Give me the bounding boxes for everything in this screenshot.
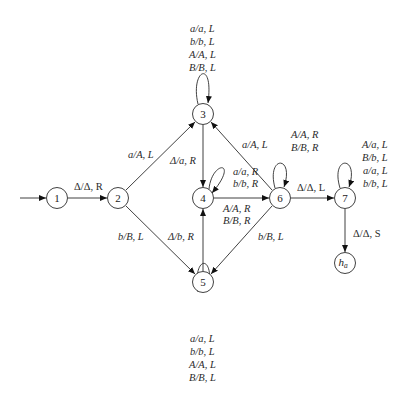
state-1: 1: [47, 188, 68, 209]
loop-7-line-1: A/a, L: [361, 139, 388, 150]
loop-label-5: a/a, L b/b, L A/A, L B/B, L: [188, 333, 216, 383]
state-6-label: 6: [277, 192, 283, 204]
loop-7: [338, 163, 352, 188]
loop-5-line-1: a/a, L: [190, 333, 215, 344]
state-1-label: 1: [54, 192, 60, 204]
loop-3-line-4: B/B, L: [189, 62, 216, 73]
state-2: 2: [108, 188, 129, 209]
loop-label-6: A/A, R B/B, R: [290, 129, 319, 153]
loop-4: [209, 168, 224, 193]
state-7: 7: [335, 188, 356, 209]
state-3: 3: [193, 104, 214, 125]
diagram-svg: 1 2 3 4 5 6 7 ha Δ/Δ, R a/A, L b/B, L Δ/…: [0, 0, 406, 395]
state-4: 4: [193, 188, 214, 209]
edge-label-6-7: Δ/Δ, L: [297, 182, 325, 193]
edge-label-1-2: Δ/Δ, R: [74, 181, 103, 192]
state-halt-accept: ha: [335, 253, 356, 274]
loop-4-line-2: b/b, R: [233, 178, 259, 189]
edge-4-6-line-2: B/B, R: [223, 215, 251, 226]
edge-label-4-6: A/A, R B/B, R: [222, 203, 251, 226]
state-4-label: 4: [200, 192, 206, 204]
edge-label-6-5: b/B, L: [258, 231, 284, 242]
state-3-label: 3: [200, 108, 206, 120]
loop-3-line-3: A/A, L: [188, 49, 216, 60]
loop-3-line-2: b/b, L: [190, 36, 215, 47]
edge-label-3-4: Δ/a, R: [169, 155, 197, 166]
edge-label-6-3: a/A, L: [242, 139, 268, 150]
state-2-label: 2: [115, 192, 121, 204]
edge-label-2-5: b/B, L: [118, 231, 144, 242]
edge-label-5-4: Δ/b, R: [167, 231, 195, 242]
loop-7-line-3: a/a, L: [363, 165, 388, 176]
state-7-label: 7: [342, 192, 348, 204]
loop-5-line-4: B/B, L: [189, 372, 216, 383]
turing-machine-diagram: 1 2 3 4 5 6 7 ha Δ/Δ, R a/A, L b/B, L Δ/…: [0, 0, 406, 395]
loop-5-line-2: b/b, L: [190, 346, 215, 357]
loop-label-3: a/a, L b/b, L A/A, L B/B, L: [188, 23, 216, 73]
loop-4-line-1: a/a, R: [233, 166, 259, 177]
state-5-label: 5: [200, 276, 206, 288]
loop-6-line-1: A/A, R: [290, 129, 319, 140]
loop-6-line-2: B/B, R: [291, 142, 319, 153]
state-6: 6: [270, 188, 291, 209]
loop-label-4: a/a, R b/b, R: [233, 166, 259, 189]
loop-3: [196, 74, 209, 104]
loop-label-7: A/a, L B/b, L a/a, L b/b, L: [361, 139, 388, 189]
state-5: 5: [193, 272, 214, 293]
loop-5-line-3: A/A, L: [188, 359, 216, 370]
loop-7-line-2: B/b, L: [362, 152, 388, 163]
loop-7-line-4: b/b, L: [363, 178, 388, 189]
edge-label-7-ha: Δ/Δ, S: [353, 228, 381, 239]
loop-6: [273, 163, 286, 188]
edge-label-2-3: a/A, L: [128, 149, 154, 160]
loop-3-line-1: a/a, L: [190, 23, 215, 34]
edge-4-6-line-1: A/A, R: [222, 203, 251, 214]
